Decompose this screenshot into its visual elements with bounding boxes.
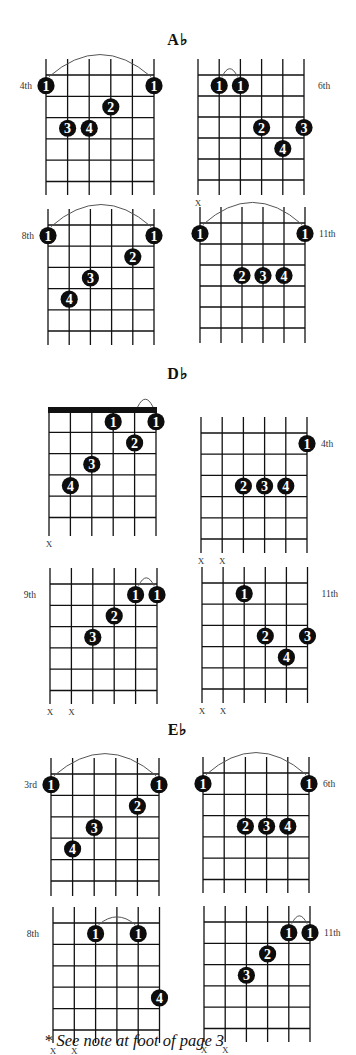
fret-position-label: 4th [321,439,333,449]
finger-dot: 2 [259,945,276,962]
finger-dot: 2 [129,798,146,815]
chord-diagram-ab-4: 1123411th [191,202,335,343]
svg-text:3: 3 [263,819,270,834]
svg-text:2: 2 [111,609,118,624]
svg-text:3: 3 [87,271,94,286]
svg-text:1: 1 [307,926,314,941]
finger-dot: 1 [211,77,228,94]
finger-dot: 1 [150,776,167,793]
svg-text:1: 1 [132,588,139,603]
fret-position-label: 6th [323,779,335,789]
finger-dot: 3 [256,477,273,494]
svg-text:2: 2 [107,100,114,115]
muted-string-marker: X [46,539,53,549]
svg-text:1: 1 [154,588,161,603]
chord-diagram-db-1: 11234X [46,399,165,549]
finger-dot: 4 [274,140,291,157]
finger-dot: 1 [194,775,211,792]
finger-dot: 3 [59,120,76,137]
finger-dot: 4 [64,840,81,857]
svg-text:1: 1 [197,227,204,242]
finger-dot: 4 [277,477,294,494]
finger-dot: 1 [232,77,249,94]
svg-text:2: 2 [129,250,136,265]
finger-dot: 2 [106,607,123,624]
fret-position-label: 11th [319,229,336,239]
finger-dot: 1 [301,924,318,941]
finger-dot: 1 [145,77,162,94]
svg-text:3: 3 [88,457,95,472]
fret-position-label: 9th [24,590,36,600]
svg-text:1: 1 [241,587,248,602]
fret-position-label: 11th [322,589,339,599]
svg-text:4: 4 [156,991,163,1006]
finger-dot: 2 [257,627,274,644]
svg-text:1: 1 [43,79,50,94]
barre-arc [138,399,153,407]
muted-string-marker: X [68,707,75,717]
svg-text:3: 3 [260,269,267,284]
svg-text:1: 1 [216,79,223,94]
finger-dot: 1 [147,413,164,430]
svg-text:1: 1 [237,79,244,94]
finger-dot: 3 [86,819,103,836]
svg-text:3: 3 [261,479,268,494]
svg-text:2: 2 [131,436,138,451]
finger-dot: 1 [127,586,144,603]
svg-text:1: 1 [45,229,52,244]
finger-dot: 1 [236,585,253,602]
finger-dot: 1 [145,227,162,244]
svg-text:1: 1 [285,926,292,941]
muted-string-marker: X [220,706,227,716]
svg-text:3: 3 [89,630,96,645]
svg-text:1: 1 [151,229,158,244]
finger-dot: 3 [238,967,255,984]
svg-text:4: 4 [282,479,289,494]
svg-text:1: 1 [153,415,160,430]
chord-diagram-db-3: 11239thXX [24,568,166,717]
finger-dot: 1 [105,413,122,430]
footnote: * See note at foot of page 3 [44,1031,224,1051]
finger-dot: 4 [278,649,295,666]
finger-dot: 3 [84,629,101,646]
chord-diagram-db-2: 12344thXX [198,417,334,566]
finger-dot: 3 [295,119,312,136]
barre-arc [49,55,151,77]
svg-text:1: 1 [302,227,309,242]
svg-text:4: 4 [283,650,290,665]
finger-dot: 1 [87,925,104,942]
svg-text:2: 2 [262,629,269,644]
svg-text:1: 1 [92,927,99,942]
svg-text:1: 1 [306,777,313,792]
finger-dot: 3 [82,269,99,286]
fret-position-label: 8th [27,929,39,939]
chord-diagram-eb-1: 112343rd [24,754,167,896]
fret-position-label: 6th [318,81,330,91]
svg-text:2: 2 [242,819,249,834]
finger-dot: 2 [102,98,119,115]
muted-string-marker: X [199,706,206,716]
svg-text:4: 4 [281,269,288,284]
svg-text:2: 2 [264,947,271,962]
svg-text:4: 4 [67,479,74,494]
svg-text:2: 2 [240,479,247,494]
finger-dot: 1 [296,225,313,242]
muted-string-marker: X [219,556,226,566]
finger-dot: 1 [298,435,315,452]
finger-dot: 4 [61,291,78,308]
chord-diagrams-canvas: 112344th112346thX112348th1123411th11234X… [0,0,356,1055]
svg-text:4: 4 [86,121,93,136]
barre-arc [54,754,156,776]
chord-diagram-ab-3: 112348th [22,205,163,346]
barre-arc [51,205,151,227]
chord-diagram-db-4: 123411thXX [199,567,339,716]
svg-text:3: 3 [243,968,250,983]
finger-dot: 4 [275,267,292,284]
finger-dot: 4 [279,818,296,835]
chord-diagram-eb-2: 112346th [194,753,335,893]
finger-dot: 3 [83,456,100,473]
svg-text:4: 4 [69,842,76,857]
svg-text:3: 3 [64,121,71,136]
finger-dot: 1 [130,925,147,942]
finger-dot: 1 [191,225,208,242]
